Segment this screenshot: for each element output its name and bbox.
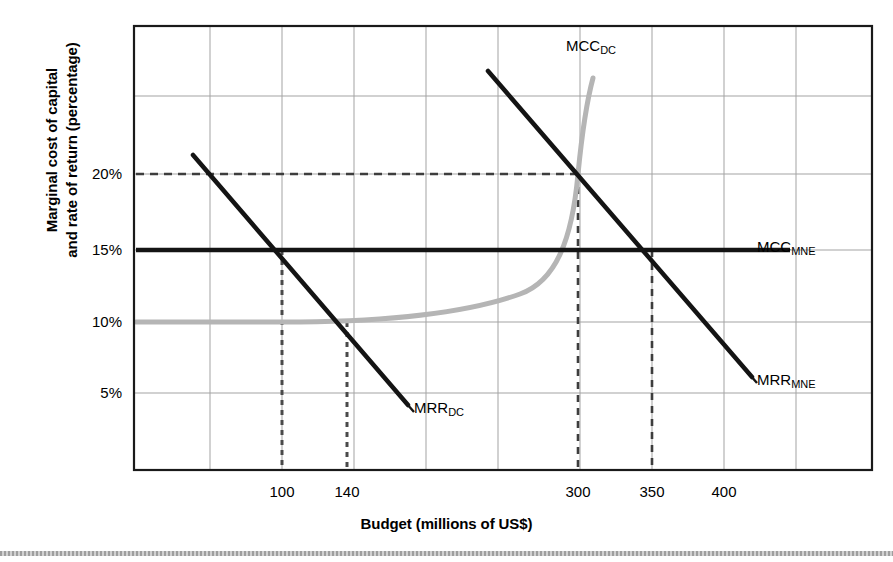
series-label-mcc-dc-main: MCC <box>566 37 600 54</box>
x-tick-label-300: 300 <box>548 483 608 500</box>
series-label-mcc-dc: MCCDC <box>566 37 616 54</box>
series-label-mcc-dc-sub: DC <box>600 44 616 56</box>
series-label-mrr-mne-main: MRR <box>757 371 791 388</box>
y-axis-title-line2: and rate of return (percentage) <box>62 0 82 300</box>
series-label-mcc-mne: MCCMNE <box>757 238 816 255</box>
y-tick-label-5: 5% <box>60 384 122 401</box>
series-label-mcc-mne-sub: MNE <box>791 245 815 257</box>
series-label-mrr-dc: MRRDC <box>414 399 464 416</box>
x-tick-label-350: 350 <box>622 483 682 500</box>
series-label-mrr-dc-main: MRR <box>414 399 448 416</box>
x-tick-label-140: 140 <box>317 483 377 500</box>
series-label-mrr-mne-sub: MNE <box>791 378 815 390</box>
y-axis-title-line1: Marginal cost of capital <box>42 0 62 300</box>
x-tick-label-400: 400 <box>694 483 754 500</box>
series-label-mrr-dc-sub: DC <box>448 406 464 418</box>
x-axis-title: Budget (millions of US$) <box>0 515 893 532</box>
series-label-mcc-mne-main: MCC <box>757 238 791 255</box>
chart-figure: 20% 15% 10% 5% 100 140 300 350 400 MCCDC… <box>0 0 893 562</box>
y-tick-label-10: 10% <box>60 313 122 330</box>
plot-canvas <box>0 0 893 562</box>
y-axis-title: Marginal cost of capital and rate of ret… <box>42 0 82 300</box>
bottom-rule-divider <box>0 551 893 556</box>
series-label-mrr-mne: MRRMNE <box>757 371 816 388</box>
x-tick-label-100: 100 <box>252 483 312 500</box>
